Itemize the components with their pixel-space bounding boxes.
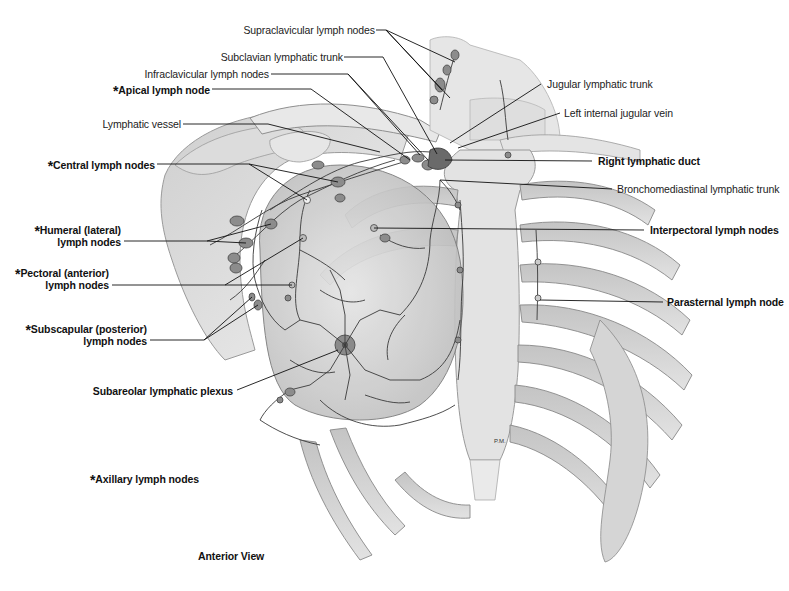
label-subclavian-trunk: Subclavian lymphatic trunk	[221, 51, 343, 63]
label-pectoral: *Pectoral (anterior) lymph nodes	[15, 266, 109, 291]
right-ribs	[510, 181, 692, 562]
asterisk-marker: *	[90, 472, 95, 488]
label-central: *Central lymph nodes	[48, 158, 155, 171]
label-bronchomediastinal: Bronchomediastinal lymphatic trunk	[617, 183, 779, 195]
breast	[260, 165, 464, 420]
label-parasternal: Parasternal lymph node	[667, 296, 784, 308]
label-lymphatic-vessel: Lymphatic vessel	[102, 118, 181, 130]
label-infraclavicular: Infraclavicular lymph nodes	[144, 68, 269, 80]
legend-axillary-note: *Axillary lymph nodes	[90, 472, 199, 485]
view-caption: Anterior View	[198, 550, 264, 562]
asterisk-marker: *	[113, 83, 118, 99]
label-interpectoral: Interpectoral lymph nodes	[650, 224, 779, 236]
asterisk-marker: *	[34, 223, 39, 239]
label-left-ijv: Left internal jugular vein	[564, 107, 673, 119]
label-apical: *Apical lymph node	[113, 83, 210, 96]
neck-region	[430, 37, 640, 162]
label-supraclavicular: Supraclavicular lymph nodes	[243, 24, 375, 36]
label-humeral: *Humeral (lateral) lymph nodes	[34, 223, 121, 248]
label-jugular-trunk: Jugular lymphatic trunk	[547, 78, 653, 90]
label-subscapular: *Subscapular (posterior) lymph nodes	[26, 322, 148, 347]
asterisk-marker: *	[26, 322, 31, 338]
asterisk-marker: *	[48, 158, 53, 174]
anatomy-figure: P.M. Supraclavicular lymph nodes Subclav…	[0, 0, 789, 591]
label-subareolar: Subareolar lymphatic plexus	[93, 385, 233, 397]
label-right-lymphatic-duct: Right lymphatic duct	[598, 155, 700, 167]
artist-initials: P.M.	[494, 438, 506, 444]
asterisk-marker: *	[15, 266, 20, 282]
